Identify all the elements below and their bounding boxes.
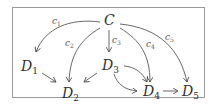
node-d1-label: D [21, 58, 32, 74]
edge-label-c4: c4 [146, 40, 155, 51]
edge-label-c5: c5 [165, 33, 174, 44]
node-d3-subscript: 3 [113, 65, 119, 75]
node-d1: D1 [21, 59, 38, 78]
edge-label-c2-subscript: 2 [70, 42, 74, 49]
node-d1-subscript: 1 [32, 66, 38, 76]
edge-label-c1: c1 [52, 17, 61, 28]
edge-label-c3-subscript: 3 [117, 39, 121, 46]
node-d4-subscript: 4 [154, 91, 160, 101]
node-d2-label: D [62, 85, 73, 101]
edge-label-c3: c3 [112, 36, 121, 47]
edge-label-c1-subscript: 1 [57, 20, 61, 27]
edge-label-c2: c2 [65, 39, 74, 50]
edge-label-c5-subscript: 5 [170, 36, 174, 43]
edge-d1-d2 [42, 73, 56, 82]
edge-label-c4-subscript: 4 [151, 43, 155, 50]
node-d4-label: D [143, 83, 154, 99]
node-d2-subscript: 2 [73, 93, 79, 103]
edge-c-d4 [120, 28, 150, 82]
node-d5: D5 [182, 84, 199, 103]
edge-c-d5 [120, 24, 187, 82]
node-d2: D2 [62, 86, 79, 105]
node-d5-subscript: 5 [193, 91, 199, 101]
node-c-label: C [104, 12, 115, 28]
node-c: C [104, 13, 115, 27]
node-d5-label: D [182, 83, 193, 99]
node-d4: D4 [143, 84, 160, 103]
edge-d3-d2 [84, 73, 97, 82]
edge-d3-d4-a [124, 66, 147, 82]
node-d3-label: D [102, 57, 113, 73]
node-d3: D3 [102, 58, 119, 77]
